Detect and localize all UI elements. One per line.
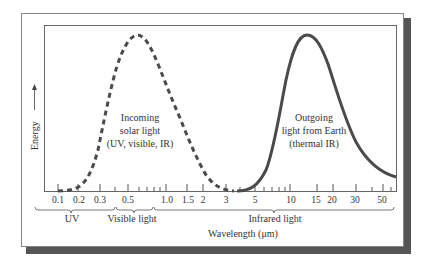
svg-text:Energy: Energy — [29, 121, 40, 150]
svg-text:0.1: 0.1 — [52, 195, 64, 205]
svg-text:solar light: solar light — [120, 125, 160, 136]
svg-text:light from Earth: light from Earth — [282, 125, 346, 136]
svg-text:2: 2 — [201, 195, 206, 205]
svg-text:0.2: 0.2 — [73, 195, 85, 205]
svg-text:30: 30 — [350, 195, 360, 205]
svg-text:UV: UV — [65, 213, 80, 224]
x-axis-label: Wavelength (μm) — [208, 228, 278, 240]
region-braces — [35, 207, 394, 213]
svg-text:Visible light: Visible light — [107, 213, 156, 224]
svg-text:0.5: 0.5 — [122, 195, 134, 205]
x-tick-labels: 0.1 0.2 0.3 0.5 1.0 1.5 2 3 5 10 15 20 3… — [52, 195, 387, 205]
arrow-head-icon — [32, 84, 37, 90]
y-axis-label: Energy — [29, 84, 40, 150]
svg-text:1.5: 1.5 — [182, 195, 194, 205]
svg-text:(UV, visible, IR): (UV, visible, IR) — [107, 138, 173, 150]
spectrum-chart: Energy 0.1 0.2 0.3 0.5 — [0, 0, 432, 264]
earth-annotation: Outgoing light from Earth (thermal IR) — [282, 112, 346, 150]
svg-text:3: 3 — [224, 195, 229, 205]
svg-text:Outgoing: Outgoing — [295, 112, 333, 123]
svg-text:15: 15 — [311, 195, 321, 205]
svg-text:Incoming: Incoming — [121, 112, 159, 123]
svg-text:1.0: 1.0 — [161, 195, 173, 205]
svg-text:10: 10 — [286, 195, 296, 205]
svg-text:Infrared light: Infrared light — [248, 213, 301, 224]
svg-text:(thermal IR): (thermal IR) — [289, 138, 339, 150]
svg-text:5: 5 — [253, 195, 258, 205]
svg-text:20: 20 — [327, 195, 337, 205]
region-labels: UV Visible light Infrared light — [65, 213, 302, 224]
svg-text:50: 50 — [377, 195, 387, 205]
solar-annotation: Incoming solar light (UV, visible, IR) — [107, 112, 173, 150]
svg-text:0.3: 0.3 — [94, 195, 106, 205]
